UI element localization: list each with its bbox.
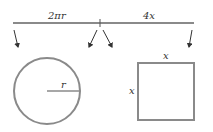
wire-diagram: 2πr 4x r x x (0, 0, 213, 132)
square-top-label: x (163, 50, 169, 61)
arrow-right-outer (189, 30, 192, 47)
left-segment-label: 2πr (47, 10, 67, 21)
square-side-label: x (129, 85, 135, 96)
arrow-left-outer (14, 30, 18, 47)
radius-label: r (61, 79, 67, 90)
square-shape (138, 63, 194, 120)
right-segment-label: 4x (142, 10, 155, 21)
arrow-right-inner (103, 30, 112, 47)
arrow-left-inner (89, 30, 97, 47)
